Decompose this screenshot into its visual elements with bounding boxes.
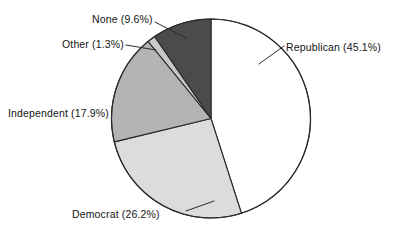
pie-label-democrat: Democrat (26.2%) bbox=[72, 209, 160, 220]
pie-label-other: Other (1.3%) bbox=[62, 39, 124, 50]
pie-chart-figure: Republican (45.1%) None (9.6%) Other (1.… bbox=[0, 0, 393, 236]
pie-label-independent: Independent (17.9%) bbox=[8, 108, 109, 119]
pie-label-none: None (9.6%) bbox=[92, 14, 153, 25]
pie-label-republican: Republican (45.1%) bbox=[286, 42, 381, 53]
